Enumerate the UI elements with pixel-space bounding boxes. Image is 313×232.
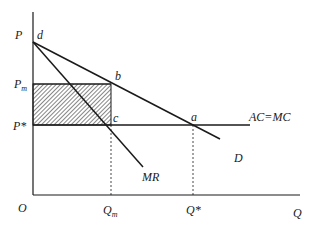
qstar-label: Q* (186, 203, 201, 217)
point-d-label: d (37, 28, 44, 42)
monopoly-profit-area (33, 84, 111, 125)
pm-label: Pm (13, 77, 27, 93)
point-c-label: c (113, 111, 119, 125)
pstar-label: P* (12, 119, 26, 133)
monopoly-diagram: P Q O Pm P* Qm Q* d b c a AC=MC D MR (0, 0, 313, 232)
point-b-label: b (115, 69, 121, 83)
point-a-label: a (191, 110, 197, 124)
mr-label: MR (141, 170, 160, 184)
qm-label: Qm (103, 203, 118, 219)
y-axis-label: P (14, 28, 23, 42)
ac-mc-label: AC=MC (248, 110, 291, 124)
x-axis-label: Q (293, 206, 302, 220)
demand-label: D (233, 151, 243, 165)
origin-label: O (18, 201, 27, 215)
